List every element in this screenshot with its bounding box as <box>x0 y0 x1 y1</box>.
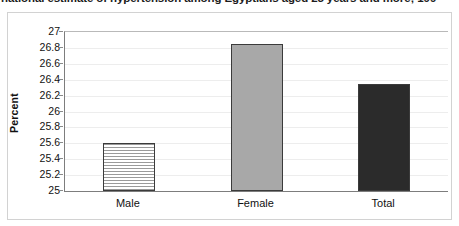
y-axis-tick-label: 25 <box>16 185 60 195</box>
y-axis-tick-label: 26 <box>16 106 60 116</box>
figure-caption-strip: national estimate of hypertension among … <box>0 0 459 9</box>
x-axis-tick-label-total: Total <box>319 196 447 210</box>
y-axis-tick-mark <box>59 190 63 191</box>
x-axis-tick-label-female: Female <box>192 196 320 210</box>
y-axis-tick-mark <box>59 63 63 64</box>
plot-area <box>64 31 448 192</box>
x-axis-tick-labels: MaleFemaleTotal <box>64 196 447 214</box>
y-axis-tick-mark <box>59 111 63 112</box>
y-axis-tick-mark <box>59 47 63 48</box>
y-axis-tick-label: 26.4 <box>16 74 60 84</box>
y-axis-tick-mark <box>59 174 63 175</box>
y-axis-tick-mark <box>59 95 63 96</box>
y-axis-tick-mark <box>59 79 63 80</box>
y-axis-tick-label: 25.2 <box>16 169 60 179</box>
y-axis-tick-labels: 2726.826.626.426.22625.825.625.425.225 <box>12 31 60 190</box>
y-axis-tick-mark <box>59 158 63 159</box>
y-axis-tick-label: 25.6 <box>16 137 60 147</box>
y-axis-tick-label: 27 <box>16 26 60 36</box>
bar-female <box>231 44 283 191</box>
y-axis-tick-label: 26.8 <box>16 42 60 52</box>
y-axis-tick-label: 26.2 <box>16 90 60 100</box>
y-axis-tick-mark <box>59 31 63 32</box>
bar-male <box>103 143 155 191</box>
x-axis-tick-label-male: Male <box>64 196 192 210</box>
y-axis-tick-label: 25.8 <box>16 121 60 131</box>
y-axis-tick-mark <box>59 126 63 127</box>
bar-total <box>358 84 410 191</box>
y-axis-tick-mark <box>59 142 63 143</box>
y-axis-tick-label: 25.4 <box>16 153 60 163</box>
y-axis-tick-label: 26.6 <box>16 58 60 68</box>
figure-caption: national estimate of hypertension among … <box>1 0 436 4</box>
